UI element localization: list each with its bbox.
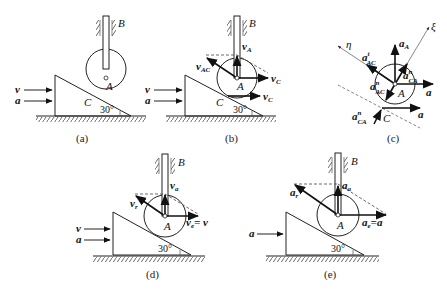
vr-arrow xyxy=(136,196,165,216)
angle-label: 30° xyxy=(331,243,345,254)
vAC-arrow xyxy=(207,58,237,78)
label-aCA-n-contact: anCA xyxy=(352,109,367,126)
label-ae: ae=a xyxy=(362,216,383,230)
label-A: A xyxy=(163,220,171,232)
caption-e: (e) xyxy=(324,268,337,281)
label-vC-contact: vC xyxy=(263,90,273,104)
panel-d: 30° B va vr ve= v A v a (d) xyxy=(76,154,208,281)
label-vAC: vAC xyxy=(196,60,211,74)
panel-c: ξ η aA atAC anCA anAC A a anCA C a (c) xyxy=(338,20,436,145)
aCA-n-contact-arrow xyxy=(374,110,381,124)
label-vA: vA xyxy=(242,40,252,54)
label-B: B xyxy=(351,155,358,167)
label-ar: ar xyxy=(290,186,299,200)
guide-left xyxy=(96,20,100,36)
label-B: B xyxy=(118,17,125,29)
label-A: A xyxy=(105,80,113,92)
label-aAC-t: atAC xyxy=(362,50,376,67)
angle-label: 30° xyxy=(233,104,247,115)
panel-a: 30° B A C v a (a) xyxy=(15,16,146,145)
label-a: a xyxy=(15,94,21,106)
rod xyxy=(103,16,109,69)
label-xi: ξ xyxy=(431,20,436,33)
label-B: B xyxy=(178,156,185,168)
guide-right xyxy=(112,20,116,36)
label-a-center: a xyxy=(426,86,432,98)
ground-hatch xyxy=(166,117,276,122)
label-vr: vr xyxy=(130,197,138,211)
label-aCA-n-center: anCA xyxy=(403,68,418,85)
wedge xyxy=(286,212,364,255)
label-a: a xyxy=(76,233,82,245)
figure-canvas: 30° B A C v a (a) 30° B xyxy=(0,0,447,292)
panel-e: 30° B aa ar ae=a A a (e) xyxy=(249,153,386,281)
label-aa: aa xyxy=(342,179,352,193)
label-a: a xyxy=(145,94,151,106)
label-B: B xyxy=(249,17,256,29)
label-a-contact: a xyxy=(418,108,424,120)
caption-a: (a) xyxy=(76,132,89,145)
label-A: A xyxy=(397,87,405,99)
label-a: a xyxy=(249,227,255,239)
label-C: C xyxy=(383,112,391,124)
caption-b: (b) xyxy=(225,132,238,145)
ground-hatch xyxy=(36,117,146,122)
label-C: C xyxy=(84,96,92,108)
label-ve: ve= v xyxy=(186,216,208,230)
label-C: C xyxy=(216,96,224,108)
label-eta: η xyxy=(346,38,351,50)
panel-b: 30° B vA vAC vC vC A C v a (b) xyxy=(145,16,281,145)
aAC-n-arrow xyxy=(386,84,395,100)
label-va: va xyxy=(170,179,179,193)
label-aAC-n: anAC xyxy=(370,79,385,96)
angle-label: 30° xyxy=(158,243,172,254)
label-A: A xyxy=(236,80,244,92)
label-A: A xyxy=(336,219,344,231)
caption-c: (c) xyxy=(387,132,400,145)
wedge xyxy=(55,75,131,116)
wedge xyxy=(113,212,191,255)
ar-arrow xyxy=(295,185,338,215)
angle-label: 30° xyxy=(100,104,114,115)
label-vC-center: vC xyxy=(271,72,281,86)
label-aA: aA xyxy=(399,37,410,51)
caption-d: (d) xyxy=(146,268,159,281)
